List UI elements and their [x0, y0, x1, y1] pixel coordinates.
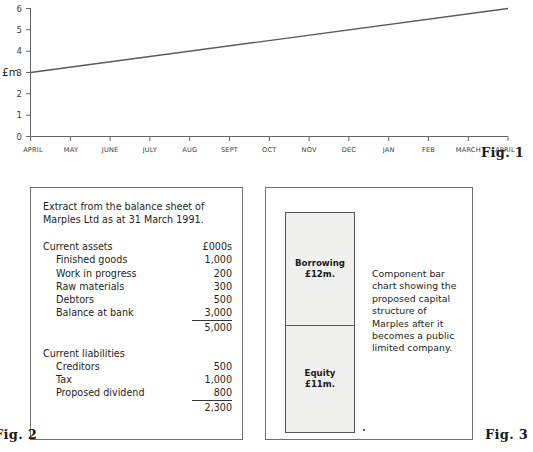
component-bar-chart: Borrowing £12m. Equity £11m.	[285, 212, 355, 433]
line-item: Tax 1,000	[43, 373, 232, 386]
unit-header: £000s	[192, 240, 232, 253]
figure-3-component-bar-box: Borrowing £12m. Equity £11m. Component b…	[265, 187, 473, 440]
line-item: Balance at bank 3,000	[43, 306, 232, 321]
y-tick-label: 5	[17, 25, 22, 35]
section-title: Current liabilities	[43, 347, 125, 360]
bar-segment-borrowing: Borrowing £12m.	[285, 212, 355, 326]
line-item-value: 1,000	[192, 253, 232, 266]
figure-2-caption: Fig. 2	[0, 427, 37, 442]
line-item-value: 200	[192, 267, 232, 280]
line-item-label: Debtors	[43, 293, 94, 306]
x-tick-label: JUNE	[101, 146, 119, 154]
figure-3-description: Component bar chart showing the proposed…	[372, 268, 464, 355]
x-tick-label: DEC	[342, 146, 357, 154]
balance-sheet-extract: Extract from the balance sheet of Marple…	[43, 201, 232, 415]
x-tick-label: FEB	[422, 146, 435, 154]
line-item-value: 800	[192, 386, 232, 401]
x-tick-label: OCT	[262, 146, 277, 154]
y-tick-label: 1	[17, 110, 22, 120]
line-item-value: 3,000	[192, 306, 232, 321]
x-tick-label: JULY	[142, 146, 158, 154]
section-title: Current assets	[43, 240, 113, 253]
line-item-label: Proposed dividend	[43, 386, 144, 399]
x-tick-label: JAN	[382, 146, 395, 154]
y-axis-ticks	[26, 9, 31, 137]
x-tick-label: APRIL	[23, 146, 43, 154]
segment-label-name: Borrowing	[295, 258, 345, 269]
line-item: Debtors 500	[43, 293, 232, 306]
bar-segment-equity: Equity £11m.	[285, 325, 355, 433]
line-item-label: Work in progress	[43, 267, 137, 280]
line-item-value: 500	[192, 293, 232, 306]
balance-sheet-heading: Extract from the balance sheet of Marple…	[43, 201, 232, 226]
y-tick-label: 6	[17, 4, 22, 14]
heading-line-2: Marples Ltd as at 31 March 1991.	[43, 214, 232, 227]
line-item-value: 300	[192, 280, 232, 293]
line-item: Raw materials 300	[43, 280, 232, 293]
line-chart-svg: 6 5 4 3 2 1 0 £m APRIL	[0, 0, 533, 175]
line-item-label: Tax	[43, 373, 72, 386]
section-total-current-liabilities: 2,300	[43, 401, 232, 414]
heading-line-1: Extract from the balance sheet of	[43, 201, 232, 214]
y-tick-label: 0	[17, 132, 22, 142]
stray-mark	[363, 429, 365, 431]
y-axis-label: £m	[2, 66, 19, 78]
figure-3-caption: Fig. 3	[485, 427, 528, 442]
y-tick-label: 4	[17, 46, 22, 56]
x-tick-label: MARCH	[456, 146, 481, 154]
figure-1-caption: Fig. 1	[481, 145, 524, 160]
total-value: 5,000	[192, 321, 232, 334]
line-item-value: 500	[192, 360, 232, 373]
line-item: Creditors 500	[43, 360, 232, 373]
figure-1-line-chart: 6 5 4 3 2 1 0 £m APRIL	[0, 0, 533, 175]
line-item-value: 1,000	[192, 373, 232, 386]
section-total-current-assets: 5,000	[43, 321, 232, 334]
line-item-label: Finished goods	[43, 253, 127, 266]
segment-label-value: £12m.	[305, 269, 335, 280]
line-item-label: Creditors	[43, 360, 100, 373]
segment-label-name: Equity	[305, 368, 336, 379]
spacer	[43, 335, 232, 347]
line-item-label: Raw materials	[43, 280, 124, 293]
section-header-current-assets: Current assets £000s	[43, 240, 232, 253]
section-header-current-liabilities: Current liabilities	[43, 347, 232, 360]
line-item-label: Balance at bank	[43, 306, 134, 319]
figure-2-balance-sheet-box: Extract from the balance sheet of Marple…	[30, 187, 243, 440]
total-value: 2,300	[192, 401, 232, 414]
segment-label-value: £11m.	[305, 379, 335, 390]
x-tick-label: NOV	[302, 146, 317, 154]
x-tick-label: MAY	[64, 146, 79, 154]
line-item: Finished goods 1,000	[43, 253, 232, 266]
y-tick-label: 2	[17, 89, 22, 99]
x-tick-labels: APRIL MAY JUNE JULY AUG SEPT OCT NOV DEC…	[23, 146, 515, 154]
x-tick-label: SEPT	[221, 146, 239, 154]
x-axis-ticks	[31, 137, 509, 142]
trend-line	[31, 9, 509, 73]
x-tick-label: AUG	[182, 146, 197, 154]
line-item: Proposed dividend 800	[43, 386, 232, 401]
line-item: Work in progress 200	[43, 267, 232, 280]
